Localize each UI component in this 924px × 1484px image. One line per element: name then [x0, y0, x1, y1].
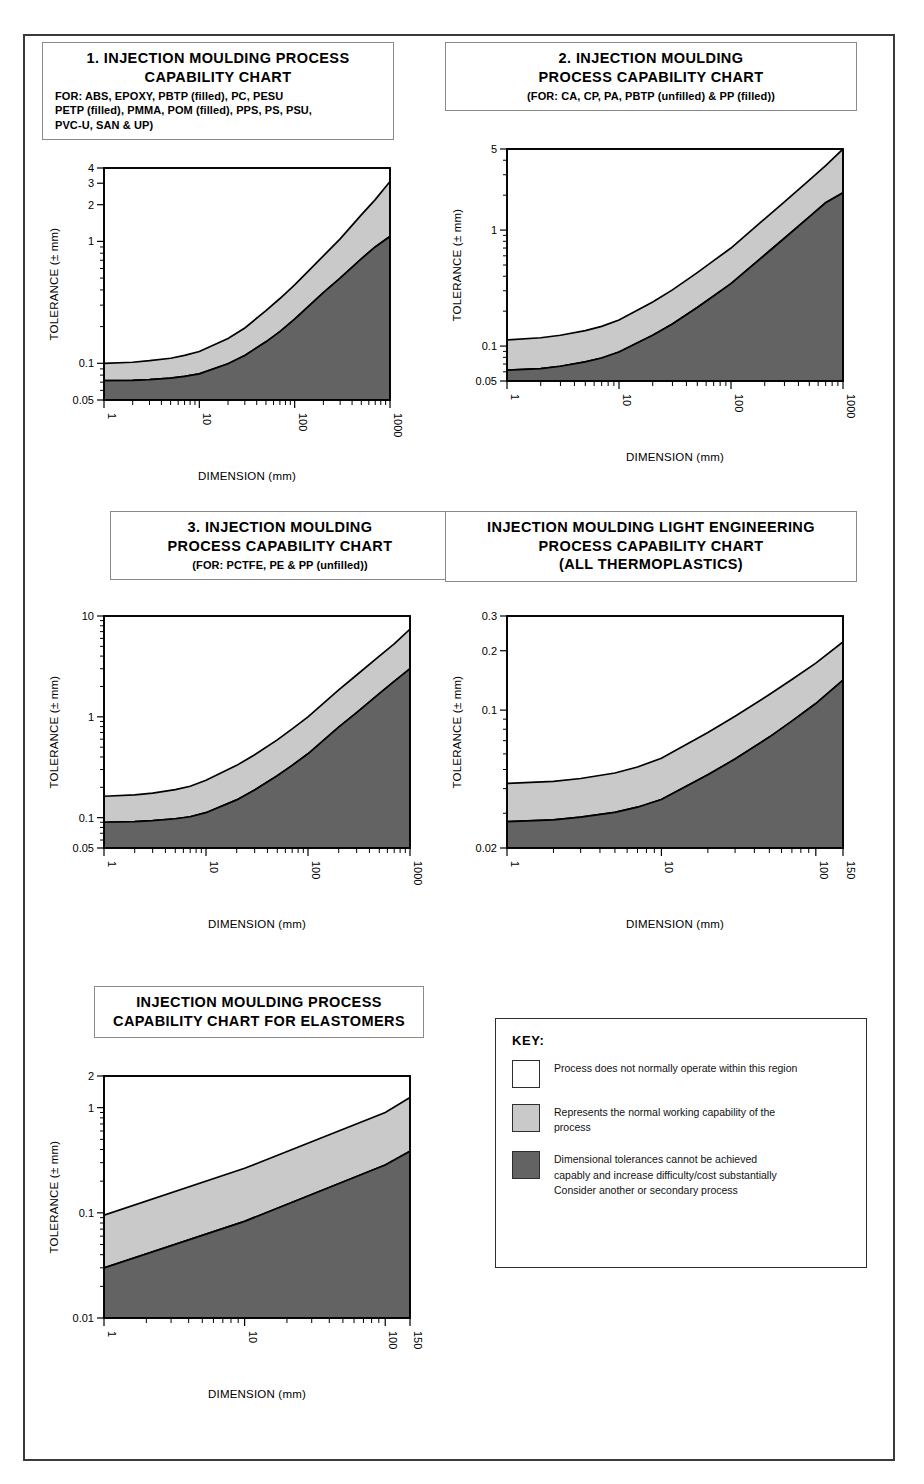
- key-label-dark-gray: Dimensional tolerances cannot be achieve…: [554, 1151, 777, 1198]
- svg-text:0.05: 0.05: [476, 375, 497, 387]
- chart-block-4: INJECTION MOULDING LIGHT ENGINEERING PRO…: [445, 511, 875, 961]
- svg-text:0.2: 0.2: [482, 644, 497, 656]
- key-item-white: Process does not normally operate within…: [512, 1060, 850, 1088]
- svg-text:1: 1: [491, 224, 497, 236]
- chart-4-plot: 0.020.10.20.3110100150TOLERANCE (± mm)DI…: [445, 604, 875, 934]
- key-label-light-gray: Represents the normal working capability…: [554, 1104, 775, 1135]
- svg-text:0.1: 0.1: [482, 340, 497, 352]
- svg-text:2: 2: [88, 1070, 94, 1082]
- svg-text:2: 2: [88, 199, 94, 211]
- svg-text:10: 10: [201, 413, 213, 425]
- svg-text:100: 100: [733, 394, 745, 412]
- svg-text:150: 150: [845, 861, 857, 879]
- svg-text:DIMENSION (mm): DIMENSION (mm): [626, 918, 724, 930]
- svg-text:1000: 1000: [392, 413, 404, 437]
- svg-text:100: 100: [387, 1331, 399, 1349]
- svg-text:10: 10: [208, 861, 220, 873]
- key-item-light-gray: Represents the normal working capability…: [512, 1104, 850, 1135]
- chart-2-title-box: 2. INJECTION MOULDING PROCESS CAPABILITY…: [445, 42, 857, 111]
- svg-text:10: 10: [82, 610, 94, 622]
- svg-text:1: 1: [509, 394, 521, 400]
- svg-text:4: 4: [88, 162, 94, 174]
- svg-text:1: 1: [88, 1102, 94, 1114]
- svg-text:10: 10: [621, 394, 633, 406]
- svg-text:0.1: 0.1: [79, 812, 94, 824]
- chart-4-title: INJECTION MOULDING LIGHT ENGINEERING PRO…: [454, 518, 848, 574]
- chart-block-3: 3. INJECTION MOULDING PROCESS CAPABILITY…: [42, 511, 442, 961]
- svg-text:TOLERANCE (± mm): TOLERANCE (± mm): [48, 1141, 60, 1254]
- svg-text:3: 3: [88, 177, 94, 189]
- svg-text:5: 5: [491, 143, 497, 155]
- svg-text:100: 100: [310, 861, 322, 879]
- key-item-dark-gray: Dimensional tolerances cannot be achieve…: [512, 1151, 850, 1198]
- svg-text:1: 1: [106, 861, 118, 867]
- svg-text:1000: 1000: [845, 394, 857, 418]
- key-swatch-dark-gray: [512, 1151, 540, 1179]
- svg-text:DIMENSION (mm): DIMENSION (mm): [198, 470, 296, 482]
- chart-5-plot: 0.010.112110100150TOLERANCE (± mm)DIMENS…: [42, 1064, 442, 1404]
- chart-1-title: 1. INJECTION MOULDING PROCESS CAPABILITY…: [51, 49, 385, 86]
- chart-3-plot: 0.050.11101101001000TOLERANCE (± mm)DIME…: [42, 604, 442, 934]
- svg-text:100: 100: [818, 861, 830, 879]
- key-swatch-white: [512, 1060, 540, 1088]
- svg-text:0.1: 0.1: [482, 704, 497, 716]
- chart-3-subtitle: (FOR: PCTFE, PE & PP (unfilled)): [119, 558, 441, 572]
- svg-text:0.01: 0.01: [73, 1312, 94, 1324]
- chart-1-subtitle: FOR: ABS, EPOXY, PBTP (filled), PC, PESU…: [51, 89, 385, 132]
- svg-text:150: 150: [412, 1331, 424, 1349]
- chart-5-title-box: INJECTION MOULDING PROCESS CAPABILITY CH…: [94, 986, 424, 1038]
- key-swatch-light-gray: [512, 1104, 540, 1132]
- chart-2-title: 2. INJECTION MOULDING PROCESS CAPABILITY…: [454, 49, 848, 86]
- chart-3-title: 3. INJECTION MOULDING PROCESS CAPABILITY…: [119, 518, 441, 555]
- svg-text:TOLERANCE (± mm): TOLERANCE (± mm): [48, 676, 60, 789]
- svg-text:TOLERANCE (± mm): TOLERANCE (± mm): [451, 209, 463, 322]
- chart-block-1: 1. INJECTION MOULDING PROCESS CAPABILITY…: [42, 42, 412, 492]
- svg-text:0.1: 0.1: [79, 1207, 94, 1219]
- chart-2-subtitle: (FOR: CA, CP, PA, PBTP (unfilled) & PP (…: [454, 89, 848, 103]
- chart-block-5: INJECTION MOULDING PROCESS CAPABILITY CH…: [42, 986, 442, 1446]
- svg-text:1: 1: [106, 413, 118, 419]
- svg-text:TOLERANCE (± mm): TOLERANCE (± mm): [48, 228, 60, 341]
- key-legend-box: KEY: Process does not normally operate w…: [495, 1018, 867, 1268]
- svg-text:DIMENSION (mm): DIMENSION (mm): [626, 451, 724, 463]
- svg-text:TOLERANCE (± mm): TOLERANCE (± mm): [451, 675, 463, 788]
- svg-text:1: 1: [509, 861, 521, 867]
- chart-2-plot: 0.050.1151101001000TOLERANCE (± mm)DIMEN…: [445, 137, 875, 467]
- chart-5-title: INJECTION MOULDING PROCESS CAPABILITY CH…: [103, 993, 415, 1030]
- svg-text:0.05: 0.05: [73, 394, 94, 406]
- chart-4-title-box: INJECTION MOULDING LIGHT ENGINEERING PRO…: [445, 511, 857, 582]
- svg-text:1: 1: [88, 235, 94, 247]
- chart-block-2: 2. INJECTION MOULDING PROCESS CAPABILITY…: [445, 42, 875, 492]
- svg-text:0.02: 0.02: [476, 842, 497, 854]
- svg-text:1: 1: [88, 711, 94, 723]
- chart-1-plot: 0.050.112341101001000TOLERANCE (± mm)DIM…: [42, 156, 412, 486]
- svg-text:10: 10: [247, 1331, 259, 1343]
- page-border-frame: 1. INJECTION MOULDING PROCESS CAPABILITY…: [23, 34, 895, 1461]
- chart-1-title-box: 1. INJECTION MOULDING PROCESS CAPABILITY…: [42, 42, 394, 140]
- chart-3-title-box: 3. INJECTION MOULDING PROCESS CAPABILITY…: [110, 511, 450, 580]
- svg-text:1: 1: [106, 1331, 118, 1337]
- svg-text:1000: 1000: [412, 861, 424, 885]
- svg-text:0.3: 0.3: [482, 610, 497, 622]
- key-label-white: Process does not normally operate within…: [554, 1060, 797, 1076]
- svg-text:100: 100: [297, 413, 309, 431]
- svg-text:DIMENSION (mm): DIMENSION (mm): [208, 918, 306, 930]
- svg-text:10: 10: [663, 861, 675, 873]
- svg-text:0.1: 0.1: [79, 357, 94, 369]
- svg-text:0.05: 0.05: [73, 842, 94, 854]
- svg-text:DIMENSION (mm): DIMENSION (mm): [208, 1388, 306, 1400]
- key-heading: KEY:: [512, 1033, 850, 1048]
